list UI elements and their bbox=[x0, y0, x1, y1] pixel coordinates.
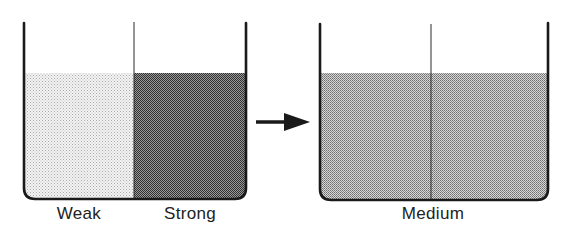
weak-label: Weak bbox=[57, 204, 101, 224]
before-beaker bbox=[24, 22, 248, 203]
after-beaker bbox=[320, 23, 550, 203]
right-arrow-icon bbox=[256, 113, 310, 131]
medium-solution bbox=[320, 73, 550, 203]
strong-solution bbox=[134, 73, 248, 203]
medium-label: Medium bbox=[402, 204, 464, 224]
weak-solution bbox=[24, 73, 134, 203]
diagram-canvas bbox=[0, 0, 567, 238]
strong-label: Strong bbox=[164, 204, 216, 224]
